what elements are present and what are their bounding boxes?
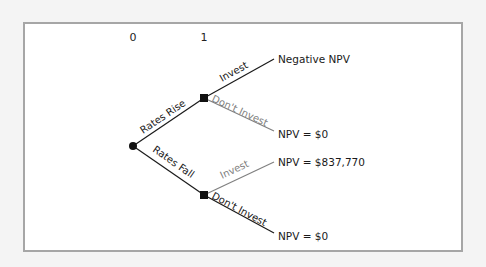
- decision-node-upper-icon: [200, 94, 208, 102]
- decision-node-lower-icon: [200, 191, 208, 199]
- label-rates-rise: Rates Rise: [138, 97, 188, 135]
- outcome-rise-dont-invest: NPV = $0: [278, 128, 328, 140]
- time-label-1: 1: [201, 31, 208, 44]
- outcome-fall-invest: NPV = $837,770: [278, 156, 365, 168]
- label-fall-invest: Invest: [218, 158, 250, 181]
- label-rise-invest: Invest: [218, 59, 250, 83]
- outcome-rise-invest: Negative NPV: [278, 53, 351, 65]
- outcome-fall-dont-invest: NPV = $0: [278, 230, 328, 242]
- chance-node-icon: [129, 142, 137, 150]
- time-label-0: 0: [130, 31, 137, 44]
- label-rise-dont-invest: Don't Invest: [210, 93, 270, 129]
- decision-tree: 0 1 Rates Rise Rates Fall Invest Don't I…: [0, 0, 486, 267]
- label-fall-dont-invest: Don't Invest: [210, 190, 269, 228]
